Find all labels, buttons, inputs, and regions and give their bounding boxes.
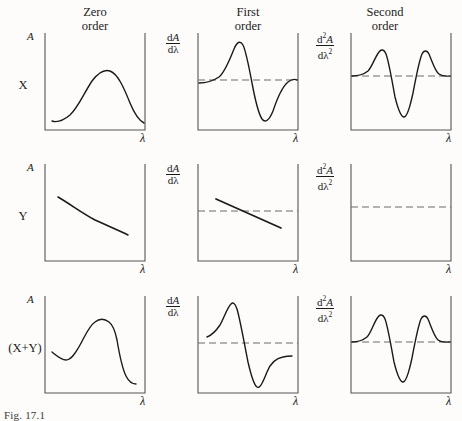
ylabel-second-num-var-y: A <box>326 164 333 176</box>
ylabel-second-denominator: dλ2 <box>316 46 334 61</box>
ylabel-xy-second: d2A dλ2 <box>316 293 334 323</box>
column-header-zero: Zero order <box>40 6 150 33</box>
ylabel-x-zero: A <box>27 31 34 42</box>
panel-x-zero <box>40 33 150 138</box>
ylabel-x-first: dA dλ <box>166 32 180 55</box>
ylabel-y-zero: A <box>27 162 34 173</box>
xlabel-y-zero: λ <box>140 262 145 277</box>
ylabel-second-den-sup-y: 2 <box>329 178 333 187</box>
panel-xy-zero-plot <box>40 296 150 401</box>
column-header-second: Second order <box>330 6 440 33</box>
ylabel-second-denominator-xy: dλ2 <box>316 309 334 324</box>
column-header-first: First order <box>193 6 303 33</box>
xlabel-x-second: λ <box>446 131 451 146</box>
panel-x-first-plot <box>193 33 303 138</box>
xlabel-xy-second: λ <box>446 394 451 409</box>
panel-y-second-plot <box>346 164 456 269</box>
row-label-y: Y <box>10 209 36 224</box>
panel-y-first <box>193 164 303 269</box>
ylabel-second-den-sup: 2 <box>329 47 333 56</box>
column-header-first-line2: order <box>235 19 261 33</box>
ylabel-xy-first: dA dλ <box>166 295 180 318</box>
ylabel-second-den-sup-xy: 2 <box>329 310 333 319</box>
ylabel-second-num-var: A <box>326 33 333 45</box>
panel-xy-first-plot <box>193 296 303 401</box>
ylabel-y-second: d2A dλ2 <box>316 161 334 191</box>
xlabel-xy-zero: λ <box>140 394 145 409</box>
ylabel-second-numerator: d2A <box>316 30 334 46</box>
xlabel-x-first: λ <box>293 131 298 146</box>
xlabel-xy-first: λ <box>293 394 298 409</box>
xlabel-y-first: λ <box>293 262 298 277</box>
ylabel-absorbance-text-y: A <box>27 161 34 173</box>
xlabel-y-second: λ <box>446 262 451 277</box>
panel-x-second-plot <box>346 33 456 138</box>
ylabel-first-num-var-y: A <box>173 162 180 174</box>
ylabel-absorbance-text: A <box>27 30 34 42</box>
ylabel-first-num-var-xy: A <box>173 294 180 306</box>
ylabel-x-second: d2A dλ2 <box>316 30 334 60</box>
panel-y-zero-plot <box>40 164 150 269</box>
row-label-x: X <box>10 78 36 93</box>
column-header-zero-line1: Zero <box>83 5 107 19</box>
ylabel-absorbance-text-xy: A <box>27 293 34 305</box>
ylabel-first-denominator-xy: dλ <box>166 307 180 318</box>
ylabel-second-denominator-y: dλ2 <box>316 177 334 192</box>
ylabel-first-num-var: A <box>173 31 180 43</box>
ylabel-second-numerator-xy: d2A <box>316 293 334 309</box>
ylabel-second-numerator-y: d2A <box>316 161 334 177</box>
ylabel-second-num-var-xy: A <box>326 296 333 308</box>
panel-y-zero <box>40 164 150 269</box>
figure-caption: Fig. 17.1 <box>4 409 45 421</box>
panel-y-first-plot <box>193 164 303 269</box>
panel-xy-second <box>346 296 456 401</box>
column-header-second-line1: Second <box>367 5 404 19</box>
panel-y-second <box>346 164 456 269</box>
column-header-zero-line2: order <box>82 19 108 33</box>
ylabel-first-denominator: dλ <box>166 44 180 55</box>
panel-xy-zero <box>40 296 150 401</box>
column-header-first-line1: First <box>237 5 260 19</box>
panel-xy-second-plot <box>346 296 456 401</box>
ylabel-y-first: dA dλ <box>166 163 180 186</box>
ylabel-first-denominator-y: dλ <box>166 175 180 186</box>
panel-x-first <box>193 33 303 138</box>
panel-x-second <box>346 33 456 138</box>
panel-xy-first <box>193 296 303 401</box>
column-header-second-line2: order <box>372 19 398 33</box>
xlabel-x-zero: λ <box>140 131 145 146</box>
ylabel-xy-zero: A <box>27 294 34 305</box>
panel-x-zero-plot <box>40 33 150 138</box>
